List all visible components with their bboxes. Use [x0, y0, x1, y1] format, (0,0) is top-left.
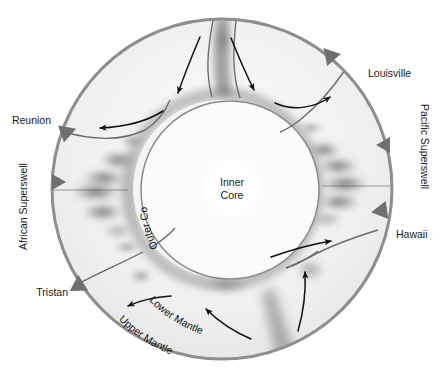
label-african-superswell: African Superswell: [17, 163, 29, 250]
label-hotspot-louisville: Louisville: [368, 67, 411, 79]
earth-cross-section-svg: Inner Core Outer Core Lower Mantle Upper…: [0, 0, 445, 378]
diagram-canvas: Inner Core Outer Core Lower Mantle Upper…: [0, 0, 445, 378]
label-pacific-superswell: Pacific Superswell: [419, 104, 431, 189]
label-inner-core-line1: Inner: [220, 176, 244, 188]
label-hotspot-tristan: Tristan: [36, 286, 68, 298]
inner-core-region: [198, 154, 266, 222]
label-hotspot-hawaii: Hawaii: [396, 228, 428, 240]
label-inner-core-line2: Core: [221, 189, 244, 201]
inner-core-fill: [198, 154, 266, 222]
label-hotspot-reunion: Reunion: [12, 114, 51, 126]
